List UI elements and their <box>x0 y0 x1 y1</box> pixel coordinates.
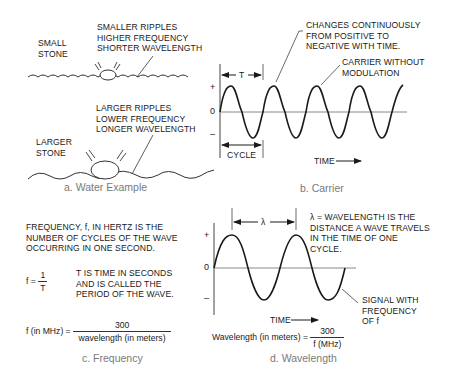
caption-frequency: c. Frequency <box>82 352 143 364</box>
carrier-zero-label: 0 <box>210 106 215 116</box>
small-stone-label: SMALLSTONE <box>38 38 68 59</box>
t-period-note: T IS TIME IN SECONDS AND IS CALLED THE P… <box>76 268 174 300</box>
caption-wavelength: d. Wavelength <box>270 352 337 364</box>
large-ripples-label: LARGER RIPPLES LOWER FREQUENCY LONGER WA… <box>96 103 196 135</box>
frequency-definition: FREQUENCY, f, IN HERTZ IS THE NUMBER OF … <box>26 222 178 254</box>
carrier-without-modulation-label: CARRIER WITHOUT MODULATION <box>342 57 425 78</box>
period-t-label: T <box>238 70 245 81</box>
carrier-time-label: TIME <box>314 156 335 167</box>
large-stone-icon <box>91 161 119 179</box>
large-stone-splash-icon <box>86 150 126 161</box>
wavelength-zero-label: 0 <box>204 262 209 272</box>
lambda-label: λ <box>259 217 267 228</box>
caption-carrier: b. Carrier <box>300 182 344 194</box>
small-ripples-label: SMALLER RIPPLES HIGHER FREQUENCY SHORTER… <box>97 22 202 54</box>
changes-continuously-label: CHANGES CONTINUOUSLY FROM POSITIVE TO NE… <box>306 20 421 52</box>
large-stone-label: LARGERSTONE <box>36 137 72 158</box>
small-stone-splash-icon <box>95 62 120 70</box>
small-ripples-leader <box>137 56 153 77</box>
wavelength-time-label: TIME <box>270 315 291 326</box>
carrier-minus-label: – <box>210 129 215 139</box>
large-ripples-water <box>28 170 214 179</box>
large-ripples-leader <box>132 135 153 174</box>
signal-with-frequency-label: SIGNAL WITH FREQUENCY OF f <box>362 295 419 327</box>
wavelength-plus-label: + <box>204 230 209 240</box>
carrier-plus-label: + <box>210 82 215 92</box>
wavelength-minus-label: – <box>204 293 209 303</box>
formula-f-mhz: f (in MHz) = 300wavelength (in meters) <box>26 320 171 343</box>
cycle-label: CYCLE <box>227 150 256 161</box>
wavelength-definition: λ = WAVELENGTH IS THE DISTANCE A WAVE TR… <box>310 212 430 254</box>
formula-f-equals-1-over-t: f = 1T <box>26 270 47 293</box>
small-stone-icon <box>100 70 116 80</box>
formula-wavelength: Wavelength (in meters) = 300f (MHz) <box>212 326 344 349</box>
caption-water-example: a. Water Example <box>64 181 147 193</box>
